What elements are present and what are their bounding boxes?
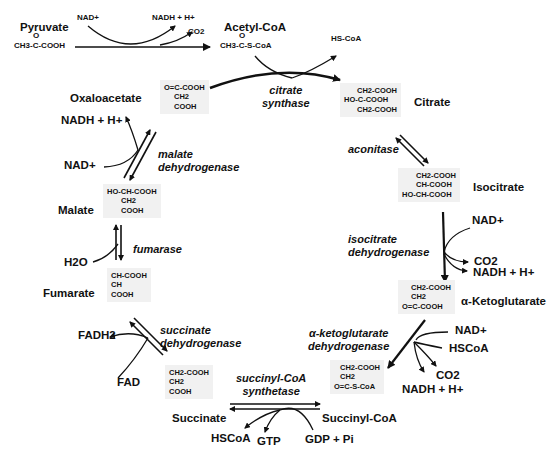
pyruvate-formula: O CH3-C-COOH bbox=[14, 36, 65, 44]
pdh-nad-in: NAD+ bbox=[77, 14, 99, 22]
pdh-co2-out: CO2 bbox=[188, 28, 204, 36]
hs-coa-out: HS-CoA bbox=[331, 35, 361, 43]
fumarate-label: Fumarate bbox=[43, 288, 95, 300]
malate-label: Malate bbox=[58, 205, 94, 217]
isocitrate-structure: CH2-COOH CH-COOH HO-CH-COOH bbox=[398, 168, 460, 202]
acetyl-coa-label: Acetyl-CoA bbox=[224, 22, 286, 34]
akg-nad-in: NAD+ bbox=[455, 325, 487, 337]
structure-line: COOH bbox=[164, 102, 205, 111]
enzyme-malate-dehydrogenase: malate dehydrogenase bbox=[158, 148, 239, 173]
succinate-label: Succinate bbox=[172, 413, 226, 425]
structure-line: O=C-COOH bbox=[402, 302, 451, 311]
succinate-structure: CH2-COOH CH2 COOH bbox=[165, 365, 213, 399]
sdh-fad-in: FAD bbox=[117, 377, 140, 389]
structure-line: O=C-S-CoA bbox=[334, 382, 380, 391]
structure-line: CH2 bbox=[107, 196, 157, 205]
mdh-nad-in: NAD+ bbox=[64, 160, 96, 172]
enzyme-line: succinyl-CoA bbox=[236, 372, 306, 385]
isocitrate-label: Isocitrate bbox=[473, 182, 524, 194]
enzyme-line: dehydrogenase bbox=[348, 246, 429, 259]
akg-hscoa-in: HSCoA bbox=[449, 343, 489, 355]
alpha-ketoglutarate-label: α-Ketoglutarate bbox=[461, 296, 546, 308]
structure-line: COOH bbox=[169, 387, 209, 396]
structure-line: CH2 bbox=[334, 372, 380, 381]
structure-line: O=C-COOH bbox=[164, 83, 205, 92]
enzyme-line: α-ketoglutarate bbox=[308, 327, 389, 340]
scs-hscoa-out: HSCoA bbox=[211, 433, 251, 445]
enzyme-line: succinate bbox=[160, 324, 241, 337]
structure-line: CH bbox=[111, 280, 147, 289]
enzyme-line: isocitrate bbox=[348, 233, 429, 246]
idh-nad-in: NAD+ bbox=[472, 215, 504, 227]
enzyme-succinyl-coa-synthetase: succinyl-CoA synthetase bbox=[236, 372, 306, 397]
enzyme-aconitase: aconitase bbox=[348, 143, 399, 156]
structure-line: HO-C-COOH bbox=[344, 95, 397, 104]
citrate-structure: CH2-COOH HO-C-COOH CH2-COOH bbox=[340, 83, 401, 117]
enzyme-line: dehydrogenase bbox=[160, 337, 241, 350]
enzyme-citrate-synthase: citrate synthase bbox=[262, 84, 310, 109]
structure-line: CH2-COOH bbox=[344, 86, 397, 95]
structure-line: CH2-COOH bbox=[169, 368, 209, 377]
fumarate-structure: CH-COOH CH COOH bbox=[107, 268, 151, 302]
enzyme-succinate-dehydrogenase: succinate dehydrogenase bbox=[160, 324, 241, 349]
succinyl-coa-label: Succinyl-CoA bbox=[322, 413, 397, 425]
enzyme-isocitrate-dehydrogenase: isocitrate dehydrogenase bbox=[348, 233, 429, 258]
pdh-nadh-out: NADH + H+ bbox=[152, 14, 195, 22]
scs-gdp-in: GDP + Pi bbox=[305, 434, 354, 446]
enzyme-line: malate bbox=[158, 148, 239, 161]
structure-line: CH2-COOH bbox=[402, 171, 456, 180]
acetyl-coa-carbonyl: O bbox=[239, 32, 245, 40]
succinyl-coa-structure: CH2-COOH CH2 O=C-S-CoA bbox=[330, 360, 384, 394]
enzyme-line: dehydrogenase bbox=[308, 340, 389, 353]
acetyl-coa-formula: O CH3-C-S-CoA bbox=[220, 36, 272, 44]
structure-line: CH2-COOH bbox=[402, 283, 451, 292]
oxaloacetate-label: Oxaloacetate bbox=[70, 93, 142, 105]
structure-line: CH-COOH bbox=[402, 180, 456, 189]
structure-line: COOH bbox=[111, 290, 147, 299]
structure-line: CH2 bbox=[164, 92, 205, 101]
pyruvate-formula-text: CH3-C-COOH bbox=[14, 41, 65, 50]
enzyme-line: synthetase bbox=[236, 385, 306, 398]
fum-h2o-in: H2O bbox=[64, 257, 88, 269]
structure-line: CH2 bbox=[169, 377, 209, 386]
acetyl-coa-formula-text: CH3-C-S-CoA bbox=[220, 41, 272, 50]
structure-line: CH2-COOH bbox=[344, 105, 397, 114]
structure-line: CH2 bbox=[402, 292, 451, 301]
structure-line: CH2-COOH bbox=[334, 363, 380, 372]
enzyme-line: aconitase bbox=[348, 143, 399, 155]
scs-gtp-out: GTP bbox=[257, 436, 281, 448]
enzyme-line: synthase bbox=[262, 97, 310, 110]
structure-line: CH-COOH bbox=[111, 271, 147, 280]
mdh-nadh-out: NADH + H+ bbox=[61, 115, 122, 127]
structure-line: COOH bbox=[107, 206, 157, 215]
pyruvate-carbonyl: O bbox=[33, 32, 39, 40]
structure-line: HO-CH-COOH bbox=[107, 187, 157, 196]
enzyme-line: fumarase bbox=[133, 243, 182, 255]
malate-structure: HO-CH-COOH CH2 COOH bbox=[103, 184, 161, 218]
enzyme-line: dehydrogenase bbox=[158, 161, 239, 174]
sdh-fadh2-out: FADH2 bbox=[78, 330, 116, 342]
citrate-label: Citrate bbox=[414, 97, 450, 109]
idh-nadh-out: NADH + H+ bbox=[473, 267, 534, 279]
enzyme-akg-dehydrogenase: α-ketoglutarate dehydrogenase bbox=[308, 327, 389, 352]
alpha-ketoglutarate-structure: CH2-COOH CH2 O=C-COOH bbox=[398, 280, 455, 314]
structure-line: HO-CH-COOH bbox=[402, 190, 456, 199]
akg-co2-out: CO2 bbox=[436, 370, 460, 382]
enzyme-fumarase: fumarase bbox=[133, 243, 182, 256]
enzyme-line: citrate bbox=[262, 84, 310, 97]
akg-nadh-out: NADH + H+ bbox=[402, 384, 463, 396]
oxaloacetate-structure: O=C-COOH CH2 COOH bbox=[160, 80, 209, 114]
pyruvate-label: Pyruvate bbox=[20, 22, 69, 34]
